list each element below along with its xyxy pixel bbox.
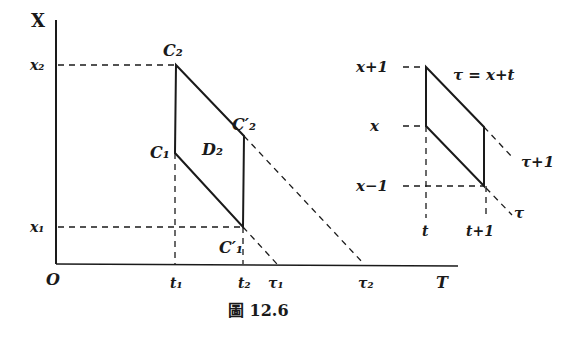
inset-tau-plus-1-label: τ+1	[521, 153, 554, 171]
axis-label-x: X	[31, 10, 45, 31]
inset-tick-t-plus-1: t+1	[466, 223, 494, 239]
tick-x1: x₁	[29, 219, 44, 235]
tick-tau2: τ₂	[358, 275, 374, 291]
tick-t1: t₁	[170, 275, 183, 291]
point-c1-prime: C′₁	[219, 238, 243, 257]
tau1-diagonal	[243, 227, 277, 264]
inset-tau-label: τ	[514, 204, 525, 222]
point-c2-prime: C′₂	[232, 115, 256, 134]
tick-t2: t₂	[238, 275, 251, 291]
inset-tick-t: t	[422, 223, 429, 239]
region-label-d2: D₂	[201, 140, 223, 159]
tick-tau1: τ₁	[268, 275, 284, 291]
tick-x2: x₂	[29, 57, 44, 73]
t-axis-horizontal	[56, 264, 458, 266]
inset-equation: τ = x+t	[453, 66, 515, 84]
figure-caption: 圖 12.6	[228, 301, 289, 320]
point-c1: C₁	[150, 143, 170, 162]
inset-tick-x-plus-1: x+1	[355, 58, 388, 76]
inset-tau-plus-1-diagonal	[484, 127, 513, 158]
tau2-diagonal	[244, 136, 364, 264]
inset-parallelogram	[426, 67, 484, 186]
axis-label-t: T	[436, 273, 449, 292]
inset-tick-x: x	[369, 117, 380, 135]
origin-label: O	[46, 270, 60, 289]
point-c2: C₂	[163, 41, 183, 60]
inset-tick-x-minus-1: x−1	[355, 177, 388, 195]
figure-canvas: X T O x₂ x₁ t₁ t₂ τ₁ τ₂ C₂ C′₂ C₁ C′₁ D₂…	[0, 0, 580, 342]
inset-tau-diagonal	[486, 188, 512, 215]
